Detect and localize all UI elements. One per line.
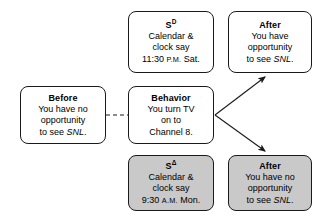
- box-behavior-title: Behavior: [151, 92, 190, 104]
- box-discriminative-stimulus-s-delta: SΔ Calendar & clock say 9:30 A.M. Mon.: [128, 155, 214, 211]
- box-sd-time: 11:30: [142, 54, 164, 64]
- box-after-dn-line-3: to see SNL.: [246, 195, 293, 207]
- box-after-dn-title: After: [259, 160, 281, 172]
- box-before-italic-term: SNL: [67, 127, 85, 137]
- box-after-up-line-1: You have: [251, 31, 288, 43]
- box-after-up-line-3: to see SNL.: [246, 54, 293, 66]
- box-sd-day: Sat.: [184, 54, 200, 64]
- box-sd-line-3: 11:30 P.M. Sat.: [142, 54, 200, 66]
- box-behavior-line-1: You turn TV: [147, 104, 194, 116]
- box-after-up-line-2: opportunity: [248, 42, 293, 54]
- box-after-reinforcement: After You have opportunity to see SNL.: [228, 11, 312, 73]
- box-before-condition: Before You have no opportunity to see SN…: [20, 86, 106, 144]
- box-before-title: Before: [48, 92, 77, 104]
- box-discriminative-stimulus-sd: SD Calendar & clock say 11:30 P.M. Sat.: [128, 11, 214, 73]
- box-sd-line-2: clock say: [152, 42, 189, 54]
- connector-behavior-to-after-up: [215, 77, 265, 115]
- box-after-dn-line-1: You have no: [245, 172, 295, 184]
- box-sdelta-period: A.M.: [162, 196, 178, 205]
- box-sdelta-title: SΔ: [166, 160, 177, 172]
- box-sdelta-day: Mon.: [180, 195, 200, 205]
- box-behavior: Behavior You turn TV on to Channel 8.: [128, 86, 214, 144]
- box-sdelta-line-2: clock say: [152, 183, 189, 195]
- box-sdelta-line-3: 9:30 A.M. Mon.: [142, 195, 200, 207]
- box-before-line-2: opportunity: [41, 115, 86, 127]
- contingency-diagram: SD Calendar & clock say 11:30 P.M. Sat. …: [0, 0, 336, 217]
- box-sd-title: SD: [166, 19, 177, 31]
- box-sdelta-line-1: Calendar &: [148, 172, 193, 184]
- box-behavior-line-2: on to: [161, 115, 181, 127]
- box-before-line-3: to see SNL.: [39, 127, 86, 139]
- box-after-dn-line-2: opportunity: [248, 183, 293, 195]
- box-sdelta-time: 9:30: [142, 195, 160, 205]
- box-sd-line-1: Calendar &: [148, 31, 193, 43]
- sd-superscript: D: [172, 18, 177, 25]
- box-after-up-italic-term: SNL: [274, 54, 292, 64]
- box-after-up-title: After: [259, 19, 281, 31]
- box-behavior-line-3: Channel 8.: [149, 127, 193, 139]
- s-delta-superscript: Δ: [172, 159, 177, 166]
- box-before-line-1: You have no: [38, 104, 88, 116]
- box-sd-period: P.M.: [166, 55, 181, 64]
- box-after-extinction: After You have no opportunity to see SNL…: [228, 155, 312, 211]
- connector-behavior-to-after-down: [215, 115, 265, 151]
- box-after-dn-italic-term: SNL: [274, 195, 292, 205]
